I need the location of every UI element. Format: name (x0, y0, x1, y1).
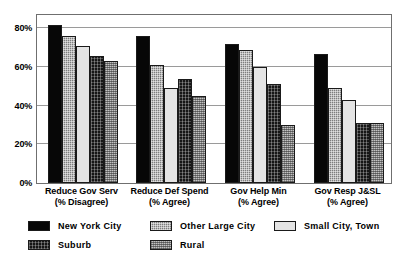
legend-swatch-smallcity (274, 221, 296, 231)
legend-label: Rural (180, 240, 205, 250)
legend-label: Small City, Town (304, 221, 379, 231)
plot-area (36, 14, 392, 184)
category-label-line2: (% Agree) (288, 197, 404, 208)
legend-item-nyc[interactable]: New York City (28, 221, 122, 231)
legend-item-otherlarge[interactable]: Other Large City (150, 221, 255, 231)
bar (48, 25, 62, 183)
legend-swatch-nyc (28, 221, 50, 231)
legend-item-smallcity[interactable]: Small City, Town (274, 221, 379, 231)
bar (239, 50, 253, 183)
bar (328, 88, 342, 183)
bar (62, 36, 76, 183)
bar (150, 65, 164, 183)
y-axis: 0%20%40%60%80% (0, 0, 34, 200)
bar (164, 88, 178, 183)
bar (342, 100, 356, 183)
bar (192, 96, 206, 183)
bar (314, 54, 328, 183)
bar-group (225, 15, 295, 183)
bars-layer (37, 15, 391, 183)
bar-group (48, 15, 118, 183)
bar (136, 36, 150, 183)
x-axis: Reduce Gov Serv(% Disagree)Reduce Def Sp… (36, 186, 392, 214)
legend-swatch-suburb (28, 240, 50, 250)
bar-chart: 0%20%40%60%80% Reduce Gov Serv(% Disagre… (0, 0, 404, 263)
bar (225, 44, 239, 183)
legend-swatch-rural (150, 240, 172, 250)
y-axis-tick-label: 20% (15, 140, 32, 149)
bar (281, 125, 295, 183)
legend-item-rural[interactable]: Rural (150, 240, 205, 250)
bar (253, 67, 267, 183)
legend-item-suburb[interactable]: Suburb (28, 240, 91, 250)
bar (267, 84, 281, 183)
bar (76, 46, 90, 183)
y-axis-tick-label: 80% (15, 24, 32, 33)
legend-swatch-otherlarge (150, 221, 172, 231)
legend-label: Suburb (58, 240, 91, 250)
legend-label: Other Large City (180, 221, 255, 231)
bar (356, 123, 370, 183)
bar (104, 61, 118, 183)
chart-legend: New York CityOther Large CitySmall City,… (28, 221, 400, 261)
legend-label: New York City (58, 221, 122, 231)
bar-group (314, 15, 384, 183)
bar (90, 56, 104, 184)
bar (178, 79, 192, 183)
bar (370, 123, 384, 183)
x-axis-category-label: Gov Resp J&SL(% Agree) (288, 186, 404, 208)
y-axis-tick-label: 40% (15, 102, 32, 111)
category-label-line1: Gov Resp J&SL (288, 186, 404, 197)
bar-group (136, 15, 206, 183)
y-axis-tick-label: 60% (15, 63, 32, 72)
